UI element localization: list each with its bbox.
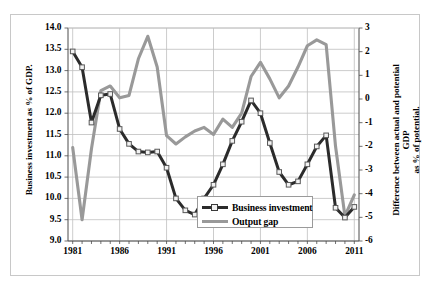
y-axis-tick-label-right: -6 — [365, 235, 387, 245]
y-axis-tick-label-right: -2 — [365, 140, 387, 150]
data-point-marker — [108, 92, 113, 97]
data-point-marker — [117, 127, 122, 132]
y-axis-tick-label-left: 14.0 — [29, 22, 62, 32]
y-axis-tick-label-left: 10.5 — [29, 171, 62, 181]
x-axis-tick-label: 1991 — [145, 246, 189, 256]
data-point-marker — [268, 141, 273, 146]
data-point-marker — [183, 208, 188, 213]
data-point-marker — [286, 182, 291, 187]
y-axis-tick-label-left: 11.0 — [29, 150, 62, 160]
data-point-marker — [99, 93, 104, 98]
right-axis-title-line-2: as % of potential. — [411, 55, 421, 225]
data-point-marker — [324, 133, 329, 138]
data-point-marker — [211, 182, 216, 187]
x-axis-tick-label: 2006 — [285, 246, 329, 256]
chart-legend: Business investmentOutput gap — [197, 196, 313, 228]
y-axis-tick-label-right: -5 — [365, 211, 387, 221]
data-point-marker — [258, 111, 263, 116]
data-point-marker — [221, 162, 226, 167]
right-axis-title-line-1: Difference between actual and potential … — [391, 55, 411, 225]
y-axis-tick-label-left: 12.0 — [29, 107, 62, 117]
y-axis-tick-label-left: 9.0 — [29, 235, 62, 245]
data-point-marker — [296, 179, 301, 184]
chart-plot-svg — [11, 15, 419, 275]
data-point-marker — [145, 150, 150, 155]
legend-swatch-icon — [202, 215, 228, 227]
y-axis-tick-label-left: 10.0 — [29, 192, 62, 202]
data-point-marker — [155, 149, 160, 154]
data-point-marker — [333, 205, 338, 210]
data-point-marker — [249, 98, 254, 103]
x-axis-tick-label: 1981 — [51, 246, 95, 256]
data-point-marker — [230, 139, 235, 144]
legend-entry: Output gap — [202, 214, 278, 228]
legend-line-icon — [202, 220, 228, 223]
y-axis-tick-label-right: -3 — [365, 164, 387, 174]
legend-label: Business investment — [232, 202, 312, 213]
x-axis-tick-label: 1986 — [98, 246, 142, 256]
data-point-marker — [89, 120, 94, 125]
legend-label: Output gap — [232, 216, 278, 227]
y-axis-tick-label-right: 1 — [365, 69, 387, 79]
right-axis-title: Difference between actual and potential … — [391, 55, 421, 225]
legend-entry: Business investment — [202, 200, 312, 214]
data-point-marker — [80, 65, 85, 70]
data-point-marker — [174, 196, 179, 201]
y-axis-tick-label-left: 11.5 — [29, 129, 62, 139]
y-axis-tick-label-left: 13.0 — [29, 65, 62, 75]
data-point-marker — [70, 49, 75, 54]
data-point-marker — [305, 162, 310, 167]
y-axis-tick-label-right: -1 — [365, 117, 387, 127]
legend-swatch-icon — [202, 201, 228, 213]
data-point-marker — [314, 144, 319, 149]
y-axis-tick-label-right: -4 — [365, 188, 387, 198]
legend-square-marker-icon — [211, 204, 218, 211]
y-axis-tick-label-right: 2 — [365, 46, 387, 56]
y-axis-tick-label-right: 0 — [365, 93, 387, 103]
data-point-marker — [239, 119, 244, 124]
data-point-marker — [136, 149, 141, 154]
x-axis-tick-label: 2011 — [332, 246, 376, 256]
data-point-marker — [127, 142, 132, 147]
x-axis-tick-label: 1996 — [192, 246, 236, 256]
y-axis-tick-label-left: 13.5 — [29, 43, 62, 53]
y-axis-tick-label-left: 12.5 — [29, 86, 62, 96]
data-point-marker — [352, 205, 357, 210]
chart-figure: Business investment as % of GDP. Differe… — [0, 0, 432, 292]
data-point-marker — [343, 215, 348, 220]
y-axis-tick-label-right: 3 — [365, 22, 387, 32]
y-axis-tick-label-left: 9.5 — [29, 214, 62, 224]
data-point-marker — [164, 165, 169, 170]
x-axis-tick-label: 2001 — [238, 246, 282, 256]
data-point-marker — [277, 170, 282, 175]
figure-outer-frame: Business investment as % of GDP. Differe… — [10, 14, 420, 276]
